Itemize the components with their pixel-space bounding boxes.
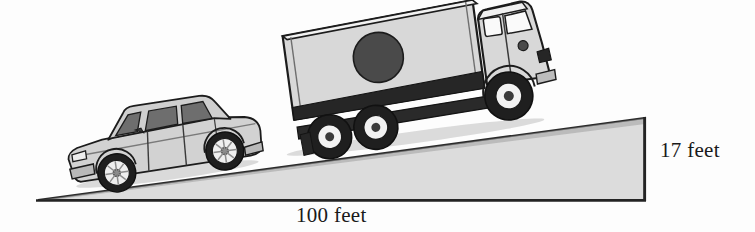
- scene-illustration: [0, 0, 755, 232]
- rise-dimension-label: 17 feet: [660, 138, 720, 163]
- run-dimension-label: 100 feet: [296, 203, 367, 228]
- truck-fuel-cap-icon: [517, 40, 528, 51]
- truck-cab-rear-window: [483, 17, 502, 37]
- ramp-figure: 17 feet 100 feet: [0, 0, 755, 232]
